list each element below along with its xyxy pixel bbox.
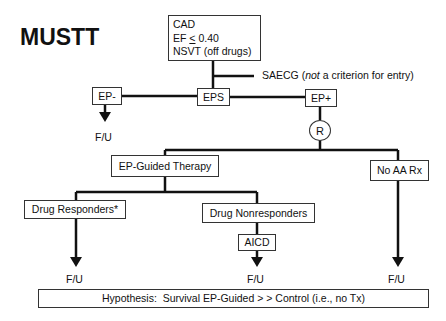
criterion-ef: EF < 0.40	[173, 32, 256, 46]
node-no-aa-rx: No AA Rx	[370, 160, 429, 181]
arrow-down-icon	[70, 257, 82, 267]
arrow-down-icon	[99, 112, 111, 122]
follow-up-aicd: F/U	[247, 273, 264, 285]
arrow-down-icon	[392, 257, 404, 267]
node-drug-nonresponders: Drug Nonresponders	[202, 203, 315, 223]
arrow-down-icon	[251, 257, 263, 267]
node-aicd: AICD	[238, 234, 276, 251]
node-ep-guided-therapy: EP-Guided Therapy	[111, 155, 219, 177]
arrowheads	[70, 112, 404, 267]
entry-criteria-box: CAD EF < 0.40 NSVT (off drugs)	[168, 15, 261, 61]
node-ep-plus: EP+	[305, 89, 337, 107]
criterion-nsvt: NSVT (off drugs)	[173, 45, 256, 59]
mustt-flowchart: MUSTT CAD EF < 0.40 NSVT (off drugs) SAE…	[0, 0, 446, 321]
diagram-title: MUSTT	[20, 24, 99, 51]
hypothesis-box: Hypothesis: Survival EP-Guided > > Contr…	[38, 289, 429, 308]
follow-up-drug-responders: F/U	[66, 273, 83, 285]
randomization-node: R	[309, 120, 331, 141]
criterion-cad: CAD	[173, 18, 256, 32]
node-drug-responders: Drug Responders*	[24, 200, 126, 219]
follow-up-ep-minus: F/U	[95, 131, 112, 143]
follow-up-no-aa-rx: F/U	[388, 273, 405, 285]
saecg-note: SAECG (not a criterion for entry)	[262, 69, 414, 81]
node-eps: EPS	[197, 88, 230, 106]
node-ep-minus: EP-	[92, 87, 122, 105]
